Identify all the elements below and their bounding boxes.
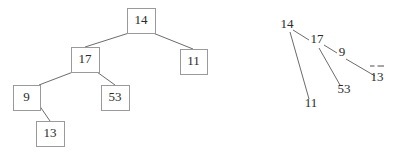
right-node-17-label: 17 [311,31,325,46]
right-tree-nodes: 14 17 9 13 53 11 [281,16,384,110]
right-node-13-label: 13 [371,69,384,84]
node-53-label: 53 [109,89,122,104]
right-edge-17-53 [319,48,340,85]
right-node-11-label: 11 [305,95,318,110]
node-9-label: 9 [23,89,30,104]
edge-17-9 [39,72,73,85]
edge-14-17 [85,33,129,47]
node-53[interactable]: 53 [102,86,130,111]
diagram-canvas: 14 17 11 9 53 13 [0,0,401,161]
left-tree-nodes: 14 17 11 9 53 13 [14,9,208,147]
node-13-label: 13 [44,125,57,140]
node-14-label: 14 [135,12,149,27]
node-14[interactable]: 14 [128,9,156,34]
right-node-14-label: 14 [281,16,295,31]
node-9[interactable]: 9 [14,86,41,111]
right-node-9-label: 9 [339,44,346,59]
right-tree-edges [290,30,375,99]
edge-14-11 [153,33,193,49]
node-11-label: 11 [187,53,200,68]
edge-17-53 [97,72,115,85]
right-edge-17-9 [324,45,337,53]
right-edge-14-11 [290,32,309,99]
node-17[interactable]: 17 [72,48,100,73]
right-edge-14-17 [293,30,309,40]
node-17-label: 17 [79,51,93,66]
right-node-53-label: 53 [338,81,351,96]
tree-diagram-svg: 14 17 11 9 53 13 [0,0,401,161]
node-13[interactable]: 13 [37,122,65,147]
node-11[interactable]: 11 [181,50,208,75]
